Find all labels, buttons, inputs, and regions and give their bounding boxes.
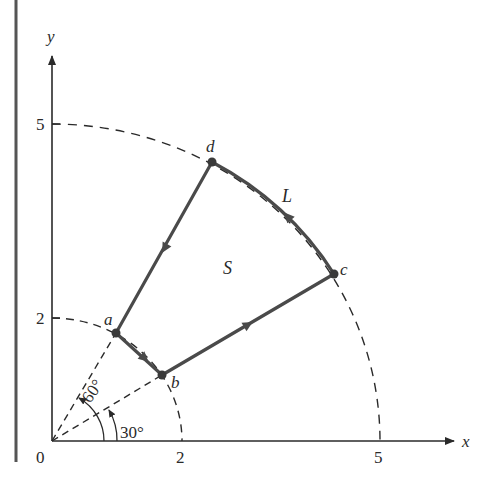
angle-arc-30 xyxy=(109,410,117,441)
segment-ab xyxy=(116,333,162,375)
point-d xyxy=(208,158,217,167)
point-label-a: a xyxy=(104,310,113,329)
point-label-b: b xyxy=(171,373,180,392)
y-tick-label-2: 2 xyxy=(36,309,45,328)
point-c xyxy=(330,270,339,279)
x-tick-label-5: 5 xyxy=(374,448,383,467)
curve-label-L: L xyxy=(281,186,292,206)
axis-label-x: x xyxy=(461,432,470,451)
point-b xyxy=(158,371,167,380)
origin-label: 0 xyxy=(36,448,45,467)
dashed-ray-30 xyxy=(52,375,162,441)
angle-label-30: 30° xyxy=(120,423,144,442)
point-label-d: d xyxy=(206,137,215,156)
point-a xyxy=(112,329,121,338)
polar-region-diagram: y x 0 2 5 2 5 a b c d L S 30° 60° xyxy=(0,0,504,494)
axis-label-y: y xyxy=(45,27,55,46)
point-label-c: c xyxy=(340,260,348,279)
angle-label-60: 60° xyxy=(78,376,107,406)
region-label-S: S xyxy=(223,258,232,278)
y-tick-label-5: 5 xyxy=(36,115,45,134)
x-tick-label-2: 2 xyxy=(176,448,185,467)
